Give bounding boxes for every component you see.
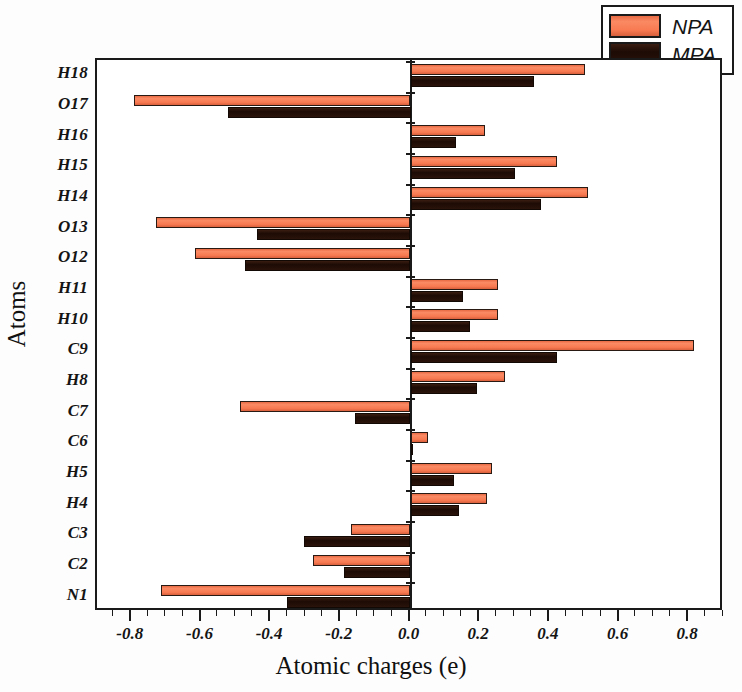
x-axis-label--0_8: -0.8 [116,624,143,644]
x-axis: -0.8-0.6-0.4-0.20.00.20.40.60.8 [95,610,722,650]
x-tick-major-0.2 [477,610,479,621]
y-axis-label-o17: O17 [58,94,88,114]
x-tick-minor--0.15 [356,610,357,616]
x-tick-minor--0.5 [234,610,235,616]
plot-area [95,58,722,610]
legend-label-npa: NPA [672,16,714,37]
x-tick-minor--0.55 [216,610,217,616]
bar-mpa-h8 [411,383,477,394]
x-axis-label-0_8: 0.8 [677,624,698,644]
x-tick-minor-0.85 [704,610,705,616]
x-tick-major--0.2 [338,610,340,621]
bar-mpa-o13 [257,229,410,240]
x-tick-major-0.8 [686,610,688,621]
bar-npa-o12 [195,248,411,259]
y-axis-label-h15: H15 [57,155,88,175]
x-tick-minor-0.35 [530,610,531,616]
bar-mpa-h11 [411,291,463,302]
x-tick-minor-0.1 [443,610,444,616]
y-axis-label-h5: H5 [66,462,88,482]
y-tick-h14 [406,184,415,186]
x-axis-title: Atomic charges (e) [0,652,742,680]
bar-npa-h5 [411,463,493,474]
bar-mpa-h10 [411,321,470,332]
x-axis-label--0_6: -0.6 [186,624,213,644]
legend-item-npa: NPA [609,12,725,40]
x-tick-minor--0.65 [182,610,183,616]
bar-mpa-h18 [411,76,535,87]
y-tick-o17 [406,92,415,94]
y-tick-h16 [406,122,415,124]
x-tick-minor-0.75 [669,610,670,616]
x-tick-minor-0.7 [652,610,653,616]
y-tick-c3 [406,521,415,523]
bar-npa-c2 [313,555,411,566]
x-tick-minor--0.1 [373,610,374,616]
y-axis-label-h14: H14 [57,186,88,206]
bar-npa-h16 [411,125,486,136]
y-axis-label-c3: C3 [68,523,88,543]
x-tick-minor-0.05 [425,610,426,616]
y-axis-label-n1: N1 [67,585,88,605]
x-tick-minor--0.05 [391,610,392,616]
bar-mpa-n1 [287,597,411,608]
y-tick-h10 [406,306,415,308]
bar-mpa-h4 [411,505,460,516]
x-tick-minor-0.25 [495,610,496,616]
chart-page: NPA MPA Atoms H18O17H16H15H14O13O12H11H1… [0,0,742,692]
bar-npa-h11 [411,279,498,290]
x-tick-major--0.4 [268,610,270,621]
x-axis-label--0_2: -0.2 [325,624,352,644]
bar-mpa-c2 [344,567,410,578]
x-axis-label-0_6: 0.6 [607,624,628,644]
y-tick-c2 [406,552,415,554]
y-tick-n1 [406,582,415,584]
bar-npa-o17 [134,95,411,106]
y-tick-h15 [406,153,415,155]
y-tick-o13 [406,214,415,216]
y-axis-labels: H18O17H16H15H14O13O12H11H10C9H8C7C6H5H4C… [22,58,88,610]
bar-mpa-h14 [411,199,542,210]
x-tick-minor--0.45 [251,610,252,616]
bar-npa-n1 [161,585,410,596]
y-axis-label-h8: H8 [66,370,88,390]
x-tick-minor--0.35 [286,610,287,616]
y-axis-label-h11: H11 [58,278,88,298]
y-axis-label-h4: H4 [66,493,88,513]
y-tick-h8 [406,368,415,370]
x-axis-label--0_4: -0.4 [256,624,283,644]
y-axis-label-o13: O13 [58,217,88,237]
y-axis-label-h10: H10 [57,309,88,329]
x-tick-major-0.4 [547,610,549,621]
x-tick-minor-0.45 [565,610,566,616]
x-tick-minor-0.65 [634,610,635,616]
x-axis-label-0_4: 0.4 [537,624,558,644]
x-tick-minor-0.55 [600,610,601,616]
y-axis-label-h18: H18 [57,63,88,83]
y-tick-c9 [406,337,415,339]
bar-npa-c9 [411,340,695,351]
y-tick-o12 [406,245,415,247]
y-tick-c6 [406,429,415,431]
bar-npa-h14 [411,187,589,198]
x-tick-minor-0.3 [513,610,514,616]
bar-npa-h10 [411,309,498,320]
x-tick-minor--0.75 [147,610,148,616]
y-tick-h5 [406,460,415,462]
bar-npa-h18 [411,64,585,75]
x-tick-major-0 [408,610,410,621]
bar-npa-h4 [411,493,488,504]
y-axis-label-o12: O12 [58,247,88,267]
bar-npa-c6 [411,432,428,443]
x-tick-minor--0.85 [112,610,113,616]
x-tick-major-0.6 [617,610,619,621]
y-axis-label-c2: C2 [68,554,88,574]
y-axis-label-c9: C9 [68,339,88,359]
y-tick-c7 [406,398,415,400]
bar-mpa-c6 [411,444,413,455]
y-axis-label-c6: C6 [68,431,88,451]
x-tick-minor--0.25 [321,610,322,616]
bar-npa-c3 [351,524,410,535]
bar-npa-h8 [411,371,505,382]
bar-mpa-c7 [355,413,411,424]
